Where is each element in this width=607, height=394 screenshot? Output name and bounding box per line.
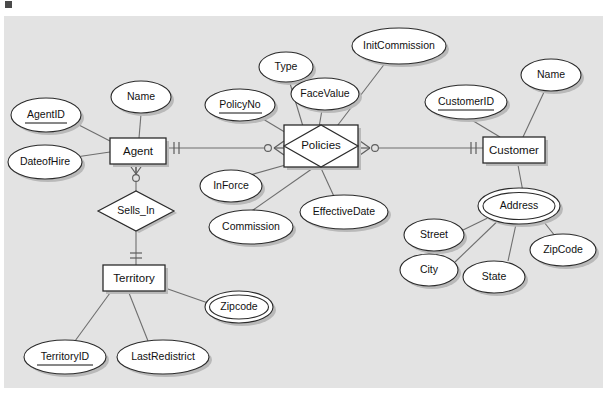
attribute-policyno-label: PolicyNo [219, 98, 261, 110]
attribute-address-zipcode-label: ZipCode [543, 243, 583, 255]
attribute-dateofhire-label: DateofHire [20, 155, 70, 167]
attribute-street-label: Street [420, 228, 448, 240]
attribute-effectivedate-label: EffectiveDate [313, 205, 375, 217]
attribute-inforce-label: InForce [213, 179, 249, 191]
attribute-facevalue-label: FaceValue [300, 87, 350, 99]
attribute-agentid-label: AgentID [27, 108, 65, 120]
attribute-commission-label: Commission [222, 220, 280, 232]
entity-customer[interactable]: Customer [483, 137, 548, 166]
entity-customer-label: Customer [489, 144, 539, 156]
attribute-initcommission-label: InitCommission [363, 39, 435, 51]
attribute-address-label: Address [500, 199, 539, 211]
attribute-territoryid-label: TerritoryID [41, 350, 90, 362]
attribute-city-label: City [420, 263, 439, 275]
entity-agent[interactable]: Agent [110, 138, 169, 167]
attribute-type-label: Type [275, 60, 298, 72]
attribute-agent-name-label: Name [127, 90, 155, 102]
attribute-customerid-label: CustomerID [438, 95, 494, 107]
entity-territory-label: Territory [113, 272, 155, 284]
attribute-territory-zipcode-label: Zipcode [220, 300, 258, 312]
attribute-customer-name-label: Name [537, 68, 565, 80]
relationship-sells-in-label: Sells_In [117, 204, 155, 216]
attribute-state-label: State [482, 270, 507, 282]
er-diagram-canvas: Agent Customer Territory Policies Sells_… [0, 0, 607, 394]
entity-policies[interactable]: Policies [284, 125, 361, 170]
attribute-lastredistrict-label: LastRedistrict [131, 350, 195, 362]
entity-agent-label: Agent [123, 145, 154, 157]
entity-territory[interactable]: Territory [103, 265, 168, 294]
entity-policies-label: Policies [301, 139, 341, 151]
corner-artifact-mark [5, 1, 12, 8]
